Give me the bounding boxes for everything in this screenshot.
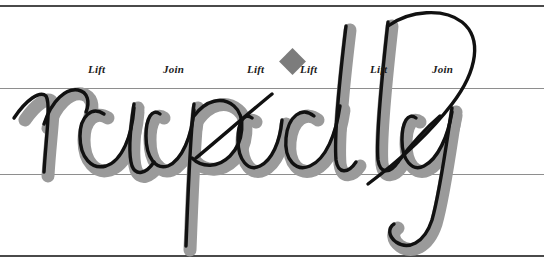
- handwriting-artwork: [0, 0, 544, 262]
- stroke-label-lift-1: Lift: [88, 64, 105, 75]
- stroke-label-join-2: Join: [432, 64, 453, 75]
- calligraphy-figure: Lift Join Lift Lift Lift Join: [0, 0, 544, 262]
- stroke-label-join-1: Join: [163, 64, 184, 75]
- stroke-label-lift-2: Lift: [247, 64, 264, 75]
- stroke-label-lift-3: Lift: [300, 64, 317, 75]
- stroke-label-lift-4: Lift: [370, 64, 387, 75]
